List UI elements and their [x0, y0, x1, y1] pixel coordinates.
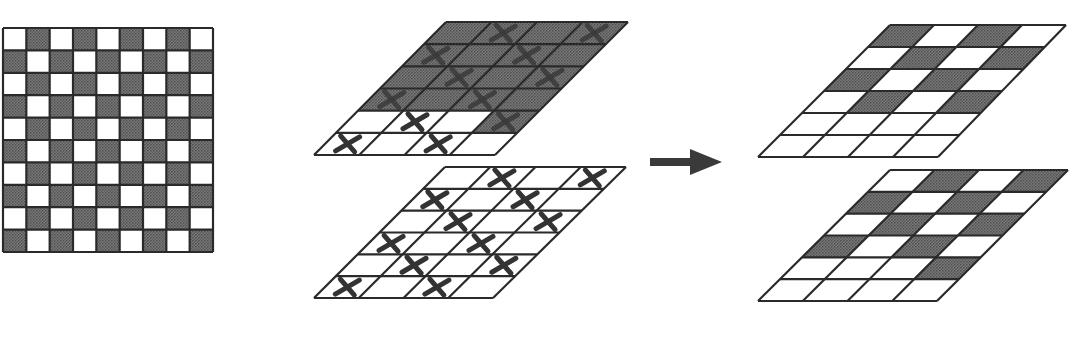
- checker-cell-white: [50, 118, 73, 140]
- checker-cell-white: [143, 118, 166, 140]
- checker-cell-dark: [26, 118, 49, 140]
- output-layer-top: [758, 25, 1066, 157]
- checker-cell-white: [166, 185, 189, 207]
- checker-cell-dark: [166, 207, 189, 229]
- checker-cell-white: [73, 50, 96, 72]
- checker-cell-dark: [3, 50, 26, 72]
- checker-cell-white: [3, 207, 26, 229]
- checker-cell-white: [120, 95, 143, 117]
- checker-cell-white: [96, 162, 119, 184]
- checker-cell-white: [96, 28, 119, 50]
- checker-cell-white: [50, 162, 73, 184]
- checker-cell-white: [3, 73, 26, 95]
- checker-cell-dark: [120, 73, 143, 95]
- checker-cell-white: [120, 185, 143, 207]
- checker-cell-white: [73, 230, 96, 252]
- checker-cell-dark: [96, 140, 119, 162]
- checker-cell-dark: [143, 50, 166, 72]
- checker-cell-white: [190, 207, 213, 229]
- checker-cell-dark: [166, 28, 189, 50]
- checker-cell-dark: [26, 207, 49, 229]
- input-layer-top: [314, 22, 628, 155]
- checker-cell-white: [166, 230, 189, 252]
- checker-cell-white: [166, 140, 189, 162]
- checker-cell-white: [3, 28, 26, 50]
- checker-cell-white: [73, 95, 96, 117]
- checker-cell-dark: [120, 28, 143, 50]
- checker-cell-dark: [50, 95, 73, 117]
- checker-cell-white: [166, 95, 189, 117]
- checker-cell-dark: [73, 162, 96, 184]
- arrow-right-icon: [650, 149, 722, 175]
- checker-cell-dark: [96, 185, 119, 207]
- checker-cell-white: [143, 28, 166, 50]
- checker-cell-dark: [143, 95, 166, 117]
- checker-cell-dark: [73, 118, 96, 140]
- checker-cell-white: [26, 140, 49, 162]
- checker-cell-dark: [190, 50, 213, 72]
- checker-cell-dark: [190, 140, 213, 162]
- checker-cell-dark: [120, 118, 143, 140]
- checker-cell-white: [143, 73, 166, 95]
- checker-cell-dark: [26, 162, 49, 184]
- checker-cell-white: [96, 73, 119, 95]
- checker-cell-white: [3, 162, 26, 184]
- output-layer-bottom: [758, 170, 1068, 301]
- checker-cell-dark: [190, 230, 213, 252]
- checker-cell-white: [166, 50, 189, 72]
- checker-cell-white: [50, 28, 73, 50]
- checker-cell-dark: [143, 140, 166, 162]
- checker-cell-white: [143, 162, 166, 184]
- checker-cell-dark: [96, 230, 119, 252]
- checker-cell-white: [120, 230, 143, 252]
- checker-cell-white: [26, 230, 49, 252]
- arrow-shape: [650, 149, 722, 175]
- checker-cell-dark: [96, 95, 119, 117]
- checker-cell-dark: [26, 73, 49, 95]
- checker-cell-white: [120, 50, 143, 72]
- checker-cell-white: [50, 73, 73, 95]
- input-layer-bottom: [314, 167, 626, 298]
- checker-cell-white: [96, 118, 119, 140]
- checker-cell-dark: [143, 185, 166, 207]
- checker-cell-dark: [166, 162, 189, 184]
- checker-cell-dark: [190, 185, 213, 207]
- source-checkerboard: [3, 28, 213, 252]
- checker-cell-dark: [26, 28, 49, 50]
- checker-cell-dark: [3, 185, 26, 207]
- checker-cell-dark: [50, 140, 73, 162]
- checker-cell-white: [96, 207, 119, 229]
- checker-cell-white: [26, 95, 49, 117]
- checker-cell-dark: [50, 185, 73, 207]
- checker-cell-white: [26, 185, 49, 207]
- checker-cell-white: [190, 162, 213, 184]
- checker-cell-dark: [73, 73, 96, 95]
- checker-cell-dark: [96, 50, 119, 72]
- diagram-canvas: [0, 0, 1073, 341]
- checker-cell-dark: [50, 230, 73, 252]
- checker-cell-dark: [143, 230, 166, 252]
- checker-cell-white: [26, 50, 49, 72]
- checker-cell-dark: [3, 230, 26, 252]
- checker-cell-white: [3, 118, 26, 140]
- checker-cell-dark: [166, 118, 189, 140]
- checker-cell-dark: [166, 73, 189, 95]
- checker-cell-white: [50, 207, 73, 229]
- checker-cell-white: [190, 28, 213, 50]
- checker-cell-white: [190, 118, 213, 140]
- checker-cell-white: [143, 207, 166, 229]
- checker-cell-dark: [73, 28, 96, 50]
- checker-cell-dark: [120, 162, 143, 184]
- checker-cell-white: [120, 140, 143, 162]
- checker-cell-dark: [190, 95, 213, 117]
- checker-cell-white: [73, 140, 96, 162]
- checker-cell-dark: [3, 95, 26, 117]
- checker-cell-dark: [73, 207, 96, 229]
- checker-cell-dark: [50, 50, 73, 72]
- checker-cell-white: [190, 73, 213, 95]
- checker-cell-white: [73, 185, 96, 207]
- checker-cell-dark: [3, 140, 26, 162]
- checker-cell-dark: [120, 207, 143, 229]
